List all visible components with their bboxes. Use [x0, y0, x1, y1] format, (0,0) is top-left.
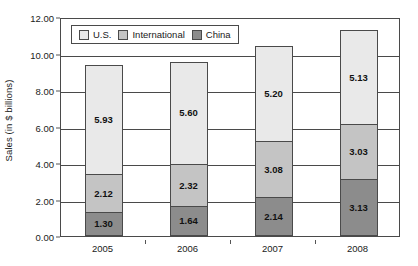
x-tick-label: 2007	[262, 243, 283, 254]
legend-item: China	[192, 29, 231, 40]
bar-segment: 2.14	[255, 197, 293, 236]
bar-segment: 3.13	[340, 179, 378, 236]
bar-segment: 2.32	[170, 164, 208, 206]
bar-value-label: 5.13	[349, 73, 368, 83]
bar-group: 1.642.325.60	[170, 62, 208, 236]
bar-segment: 5.93	[85, 65, 123, 173]
bar-group: 1.302.125.93	[85, 65, 123, 236]
x-tick-mark	[230, 240, 231, 244]
bar-value-label: 5.20	[264, 89, 283, 99]
x-tick-label: 2005	[92, 243, 113, 254]
y-tick-label: 12.00	[30, 13, 54, 24]
legend-swatch-icon	[192, 30, 202, 40]
bar-segment: 1.64	[170, 206, 208, 236]
y-tick-label: 2.00	[36, 195, 55, 206]
stacked-bar-chart: Sales (in $ billions) 0.002.004.006.008.…	[0, 0, 418, 266]
bar-group: 2.143.085.20	[255, 46, 293, 236]
bar-value-label: 3.08	[264, 165, 283, 175]
legend-label: International	[132, 29, 184, 40]
y-tick-label: 8.00	[36, 86, 55, 97]
y-tick-label: 0.00	[36, 232, 55, 243]
x-axis-tick-labels: 2005200620072008	[60, 240, 400, 260]
bar-segment: 3.08	[255, 141, 293, 197]
bar-segment: 1.30	[85, 212, 123, 236]
x-tick-mark	[145, 240, 146, 244]
chart-legend: U.S.InternationalChina	[71, 25, 239, 44]
legend-label: China	[206, 29, 231, 40]
bar-segment: 3.03	[340, 124, 378, 179]
y-tick-label: 4.00	[36, 159, 55, 170]
legend-swatch-icon	[79, 30, 89, 40]
x-tick-label: 2006	[177, 243, 198, 254]
x-tick-mark	[315, 240, 316, 244]
bar-value-label: 2.12	[94, 189, 113, 199]
legend-item: International	[118, 29, 184, 40]
bar-value-label: 3.03	[349, 147, 368, 157]
y-axis-title-text: Sales (in $ billions)	[4, 79, 15, 161]
y-tick-label: 10.00	[30, 49, 54, 60]
y-tick-label: 6.00	[36, 122, 55, 133]
bar-value-label: 2.32	[179, 181, 198, 191]
bar-value-label: 3.13	[349, 203, 368, 213]
x-tick-label: 2008	[347, 243, 368, 254]
bar-value-label: 5.93	[94, 115, 113, 125]
plot-area: 1.302.125.931.642.325.602.143.085.203.13…	[60, 18, 400, 237]
legend-label: U.S.	[93, 29, 111, 40]
bar-value-label: 5.60	[179, 108, 198, 118]
bars-layer: 1.302.125.931.642.325.602.143.085.203.13…	[61, 19, 399, 236]
bar-segment: 2.12	[85, 174, 123, 213]
bar-value-label: 2.14	[264, 212, 283, 222]
bar-segment: 5.13	[340, 30, 378, 124]
bar-segment: 5.60	[170, 62, 208, 164]
bar-value-label: 1.64	[179, 216, 198, 226]
bar-group: 3.133.035.13	[340, 30, 378, 236]
bar-value-label: 1.30	[94, 219, 113, 229]
bar-segment: 5.20	[255, 46, 293, 141]
legend-item: U.S.	[79, 29, 111, 40]
y-axis-tick-labels: 0.002.004.006.008.0010.0012.00	[16, 18, 60, 237]
legend-swatch-icon	[118, 30, 128, 40]
